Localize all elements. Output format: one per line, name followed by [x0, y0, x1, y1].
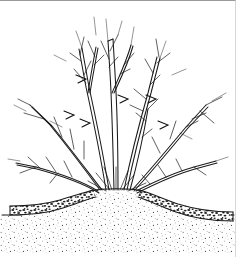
pruning-cut-mark	[64, 111, 74, 119]
illustration-figure: Line drawing of a dormant multi-stemmed …	[0, 0, 236, 257]
shrub-illustration-canvas: Line drawing of a dormant multi-stemmed …	[0, 1, 236, 257]
stem-outer-left-lower	[16, 157, 99, 193]
pruning-cut-mark	[80, 119, 90, 127]
soil-mound	[0, 187, 236, 257]
stem-outer-right-lower	[136, 159, 217, 193]
pruning-cut-mark	[118, 95, 128, 103]
pruning-cut-mark	[158, 121, 168, 129]
shrub	[8, 17, 228, 193]
stem-inner-left	[70, 37, 109, 190]
